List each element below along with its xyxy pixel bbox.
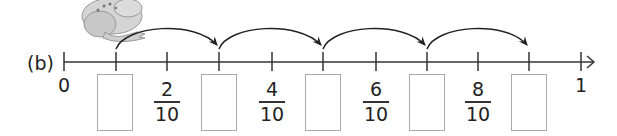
start-label: 0: [58, 76, 70, 95]
answer-box-3[interactable]: [305, 74, 341, 131]
numerator: 8: [463, 80, 493, 100]
fraction-6-10: 6 10: [361, 80, 391, 124]
denominator: 10: [463, 105, 493, 124]
answer-box-4[interactable]: [409, 74, 445, 131]
numerator: 2: [152, 80, 182, 100]
numerator: 4: [257, 80, 287, 100]
numerator: 6: [361, 80, 391, 100]
part-label: (b): [27, 54, 54, 73]
denominator: 10: [361, 105, 391, 124]
denominator: 10: [152, 105, 182, 124]
jump-arrows: [116, 28, 527, 49]
fraction-8-10: 8 10: [463, 80, 493, 124]
denominator: 10: [257, 105, 287, 124]
fraction-2-10: 2 10: [152, 80, 182, 124]
answer-box-2[interactable]: [201, 74, 237, 131]
fraction-4-10: 4 10: [257, 80, 287, 124]
end-label: 1: [575, 76, 587, 95]
answer-box-1[interactable]: [97, 74, 133, 131]
answer-box-5[interactable]: [511, 74, 547, 131]
frog-icon: [82, 0, 145, 42]
